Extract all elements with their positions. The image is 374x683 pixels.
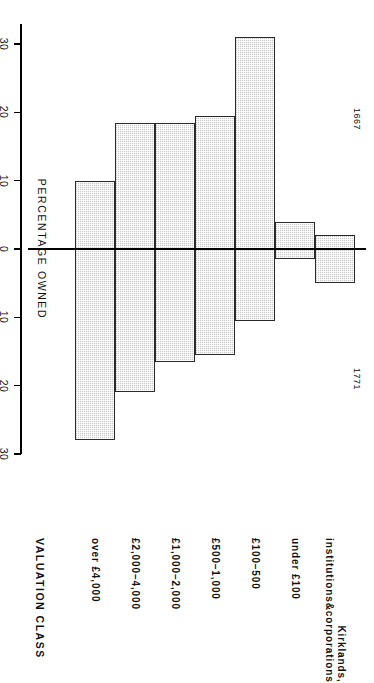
axis-tick-5	[14, 112, 21, 114]
axis-tick-label-6: 30	[0, 38, 10, 50]
bar-6	[315, 235, 355, 283]
axis-tick-label-2: 10	[0, 311, 10, 323]
bar-5	[275, 222, 315, 260]
axis-tick-1	[14, 385, 21, 387]
category-label-4: £100–500	[250, 538, 261, 590]
category-label-3: £500–1,000	[210, 538, 221, 600]
bar-3	[195, 116, 235, 355]
axis-tick-2	[14, 317, 21, 319]
period-label-1771: 1771	[352, 368, 362, 390]
axis-tick-label-0: 30	[0, 448, 10, 460]
bar-2	[155, 123, 195, 362]
axis-tick-label-5: 20	[0, 106, 10, 118]
baseline-rule	[28, 248, 366, 250]
category-label-1: £2,000–4,000	[130, 538, 141, 610]
axis-tick-label-4: 10	[0, 175, 10, 187]
value-axis	[20, 24, 22, 454]
axis-tick-3	[14, 248, 21, 250]
bar-4	[235, 37, 275, 320]
bar-0	[75, 181, 115, 441]
axis-tick-label-3: 0	[0, 246, 10, 252]
axis-tick-label-1: 20	[0, 379, 10, 391]
valuation-class-header: VALUATION CLASS	[34, 538, 46, 659]
category-label-5: under £100	[290, 538, 301, 600]
axis-tick-6	[14, 43, 21, 45]
bar-1	[115, 123, 155, 393]
axis-tick-0	[14, 453, 21, 455]
category-label-0: over £4,000	[90, 538, 101, 602]
axis-title: PERCENTAGE OWNED	[36, 179, 48, 319]
period-label-1667: 1667	[352, 108, 362, 130]
category-label-6: Kirklands,institutions&corporations	[323, 538, 347, 683]
category-label-2: £1,000–2,000	[170, 538, 181, 610]
axis-tick-4	[14, 180, 21, 182]
